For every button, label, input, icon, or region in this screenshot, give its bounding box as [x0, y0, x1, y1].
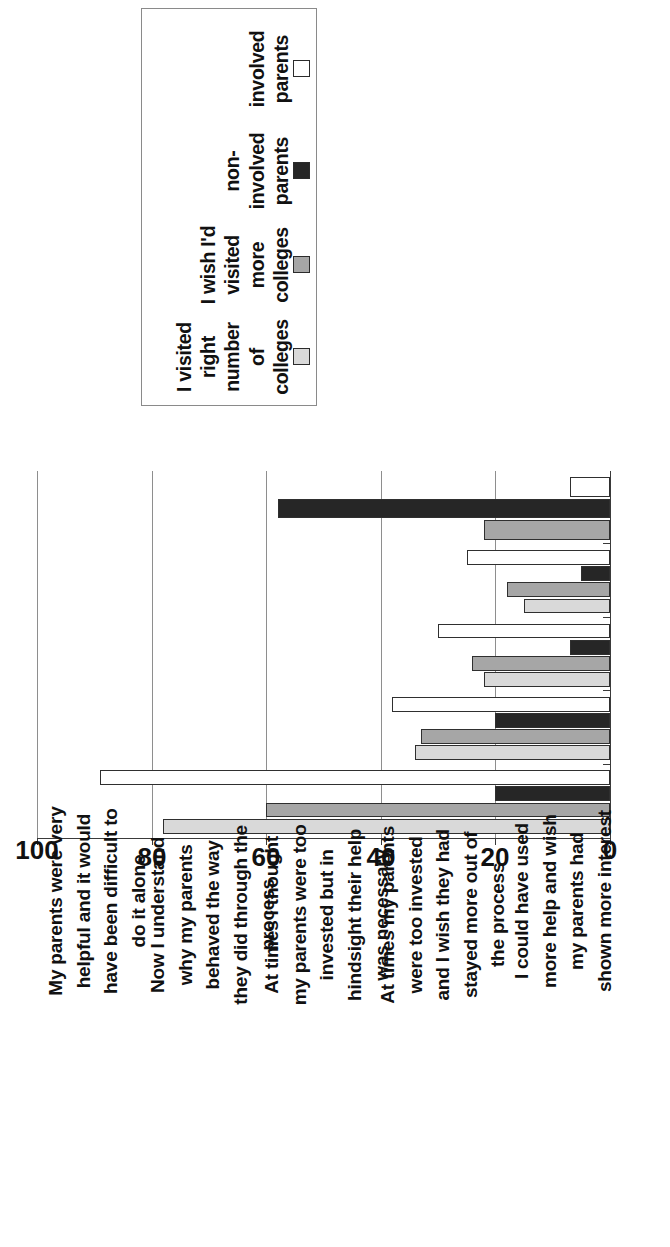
bar-c1-s2	[495, 713, 610, 728]
category-label-4: I could have used more help and wish my …	[468, 846, 658, 1247]
bar-c3-s0	[524, 599, 610, 614]
bar-c1-s3	[392, 697, 610, 712]
bar-group-4	[37, 471, 610, 544]
plot: 020406080100	[29, 437, 641, 839]
bar-c3-s2	[581, 566, 610, 581]
plot-area: 020406080100	[37, 471, 611, 839]
bar-c2-s3	[438, 624, 610, 639]
legend-item-label: involved parents	[245, 26, 293, 112]
bar-c1-s1	[421, 729, 610, 744]
bar-c3-s3	[467, 550, 610, 565]
legend-swatch-involved-parents	[293, 61, 310, 78]
gridline-0	[610, 471, 611, 838]
legend-swatch-non-involved-parents	[293, 163, 310, 180]
bar-c4-s2	[278, 499, 610, 519]
legend-item-involved-parents: involved parents	[245, 26, 315, 112]
bar-c0-s2	[495, 786, 610, 801]
legend-item-label: I wish I'd visited more colleges	[196, 222, 293, 308]
bar-group-2	[37, 618, 610, 691]
bar-c4-s1	[484, 520, 610, 540]
legend-swatch-visited-right-number	[293, 349, 310, 366]
legend: I visited right number of colleges I wis…	[141, 8, 317, 406]
legend-item-wish-visited-more: I wish I'd visited more colleges	[196, 222, 315, 308]
bar-c2-s2	[570, 640, 610, 655]
legend-item-visited-right-number: I visited right number of colleges	[172, 314, 315, 400]
legend-item-label: non-involved parents	[220, 128, 293, 214]
bar-c0-s3	[100, 770, 610, 785]
legend-rotated-plane: I visited right number of colleges I wis…	[143, 10, 315, 404]
bar-group-3	[37, 544, 610, 617]
bar-group-1	[37, 691, 610, 764]
bar-c2-s1	[472, 656, 610, 671]
category-axis-labels: My parents were very helpful and it woul…	[0, 846, 670, 1247]
bar-chart: 020406080100	[0, 428, 670, 848]
legend-item-label: I visited right number of colleges	[172, 314, 293, 400]
bar-c3-s1	[507, 582, 610, 597]
bar-c4-s3	[570, 477, 610, 497]
legend-swatch-wish-visited-more	[293, 257, 310, 274]
plot-rotated-plane: 020406080100	[29, 437, 641, 839]
bar-c2-s0	[484, 672, 610, 687]
legend-item-non-involved-parents: non-involved parents	[220, 128, 315, 214]
bar-c1-s0	[415, 745, 610, 760]
